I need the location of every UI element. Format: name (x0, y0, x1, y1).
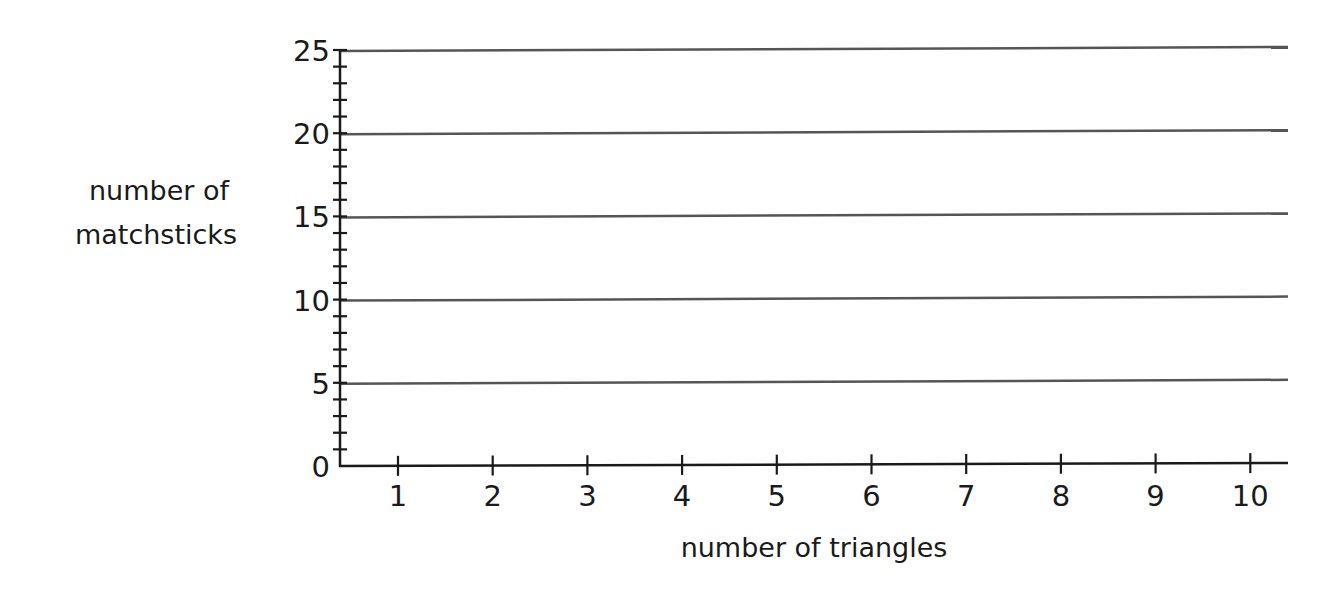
y-tick-label-25: 25 (293, 34, 330, 68)
x-tick-label-6: 6 (862, 479, 880, 513)
chart: 051015202512345678910 number of triangle… (0, 0, 1339, 592)
gridline-y-20 (340, 130, 1288, 134)
y-tick-label-15: 15 (293, 200, 330, 234)
x-tick-label-8: 8 (1052, 479, 1070, 513)
y-axis-title-line2: matchsticks (75, 219, 237, 250)
x-axis-title: number of triangles (681, 532, 948, 563)
x-tick-label-3: 3 (578, 479, 596, 513)
ticks (333, 50, 1250, 476)
gridline-y-5 (340, 380, 1288, 384)
x-tick-label-4: 4 (673, 479, 691, 513)
x-tick-label-2: 2 (483, 479, 501, 513)
gridlines (340, 47, 1288, 384)
tick-labels: 051015202512345678910 (293, 34, 1269, 513)
y-tick-label-0: 0 (312, 450, 330, 484)
x-tick-label-1: 1 (389, 479, 407, 513)
x-tick-label-5: 5 (768, 479, 786, 513)
y-tick-label-5: 5 (312, 367, 330, 401)
x-axis-line (339, 463, 1288, 466)
x-tick-label-7: 7 (957, 479, 975, 513)
x-tick-label-10: 10 (1232, 479, 1269, 513)
axes (339, 50, 1288, 467)
y-axis-title-line1: number of (89, 175, 230, 206)
gridline-y-15 (340, 213, 1288, 217)
gridline-y-10 (340, 297, 1288, 301)
y-tick-label-10: 10 (293, 284, 330, 318)
y-tick-label-20: 20 (293, 117, 330, 151)
gridline-y-25 (340, 47, 1288, 51)
x-tick-label-9: 9 (1146, 479, 1164, 513)
